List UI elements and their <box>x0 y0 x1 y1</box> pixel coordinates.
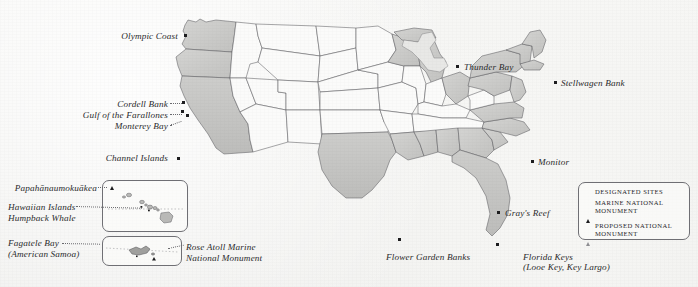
legend-row-designated-sites: Designated Sites <box>586 188 683 196</box>
square-marker-icon <box>586 188 595 191</box>
state-ohio <box>442 72 470 104</box>
marker-florida-keys <box>496 243 499 246</box>
label-grays-reef: Gray's Reef <box>505 208 550 219</box>
hawaii-islands-graphic <box>103 181 187 231</box>
marine-protected-areas-map: Olympic Coast Cordell Bank Gulf of the F… <box>0 0 698 287</box>
marker-grays-reef <box>497 211 500 214</box>
state-new-jersey-md-de <box>510 76 526 102</box>
marker-gulf-of-the-farallones <box>181 110 184 113</box>
label-monitor: Monitor <box>538 157 569 168</box>
state-oregon <box>176 49 232 78</box>
leader-gulf-of-the-farallones <box>170 114 182 115</box>
state-washington <box>182 19 236 52</box>
open-triangle-marker-icon <box>586 222 595 243</box>
marker-monterey-bay <box>186 114 189 117</box>
legend-row-proposed-national-monument: Proposed National Monument <box>586 222 683 243</box>
label-papahanaumokuakea: Papahānaumokuākea <box>0 183 97 194</box>
samoa-islands-graphic <box>103 237 181 265</box>
legend-label-marine-national-monument: Marine National Monument <box>595 199 683 215</box>
label-fagatele-bay: Fagatele Bay <box>8 238 59 249</box>
label-olympic-coast: Olympic Coast <box>58 31 178 42</box>
legend-row-marine-national-monument: Marine National Monument <box>586 199 683 220</box>
label-florida-keys-detail: (Looe Key, Key Largo) <box>523 262 610 273</box>
state-oklahoma <box>320 110 390 134</box>
label-hawaiian-islands-detail: Humpback Whale <box>8 213 76 224</box>
label-florida-keys: Florida Keys <box>523 252 573 263</box>
label-flower-garden-banks: Flower Garden Banks <box>386 252 470 263</box>
marker-channel-islands <box>177 157 180 160</box>
state-texas <box>318 132 396 198</box>
label-channel-islands: Channel Islands <box>56 153 168 164</box>
marker-cordell-bank <box>182 101 185 104</box>
map-legend: Designated Sites Marine National Monumen… <box>578 182 690 240</box>
inset-hawaii <box>102 180 188 232</box>
label-stellwagen-bank: Stellwagen Bank <box>561 78 625 89</box>
state-kansas <box>320 88 380 110</box>
legend-label-proposed-national-monument: Proposed National Monument <box>595 222 683 238</box>
marker-stellwagen-bank <box>554 81 557 84</box>
marker-olympic-coast <box>184 34 187 37</box>
marker-flower-garden-banks <box>398 238 401 241</box>
state-missouri <box>378 82 418 114</box>
state-indiana <box>424 78 446 106</box>
marker-thunder-bay <box>456 65 459 68</box>
label-rose-atoll: Rose Atoll Marine <box>186 242 256 253</box>
marker-papahanaumokuakea <box>110 186 114 190</box>
label-thunder-bay: Thunder Bay <box>464 62 513 73</box>
filled-triangle-marker-icon <box>586 199 595 220</box>
marker-monitor <box>531 160 534 163</box>
state-florida <box>452 150 510 236</box>
label-rose-atoll-detail: National Monument <box>186 253 262 264</box>
label-gulf-of-the-farallones: Gulf of the Farallones <box>12 110 168 121</box>
state-alabama <box>436 128 460 156</box>
inset-american-samoa <box>102 236 182 266</box>
label-cordell-bank: Cordell Bank <box>52 99 168 110</box>
leader-papahanaumokuakea <box>98 187 107 188</box>
state-new-mexico <box>286 110 322 144</box>
label-hawaiian-islands: Hawaiian Islands <box>8 202 75 213</box>
label-monterey-bay: Monterey Bay <box>56 121 168 132</box>
legend-label-designated-sites: Designated Sites <box>595 188 663 196</box>
label-fagatele-bay-detail: (American Samoa) <box>8 249 80 260</box>
